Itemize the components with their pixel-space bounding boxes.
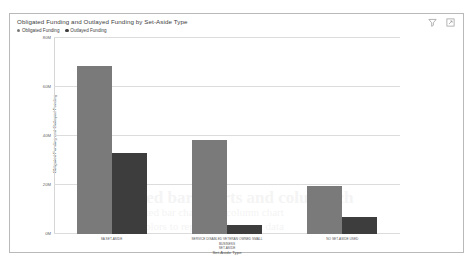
plot-wrapper: Obligated Funding and Outlayed Funding 0… bbox=[10, 14, 465, 254]
bar-outlayed[interactable] bbox=[342, 217, 377, 234]
x-axis-title: Set-Aside Type bbox=[54, 250, 400, 255]
bar-outlayed[interactable] bbox=[227, 225, 262, 234]
bar-group: 8A SET-ASIDE bbox=[54, 38, 169, 234]
y-tick-label: 0M bbox=[45, 231, 51, 236]
x-tick-label: 8A SET-ASIDE bbox=[69, 237, 155, 242]
bar-obligated[interactable] bbox=[192, 140, 227, 234]
x-tick-label: SERVICE DISABLED VETERAN OWNED SMALL BUS… bbox=[184, 237, 270, 251]
plot-area: 0M20M40M60M80M 8A SET-ASIDESERVICE DISAB… bbox=[54, 38, 400, 234]
y-tick-label: 60M bbox=[43, 84, 51, 89]
bar-obligated[interactable] bbox=[307, 186, 342, 234]
bar-series-container: 8A SET-ASIDESERVICE DISABLED VETERAN OWN… bbox=[54, 38, 400, 234]
y-tick-label: 20M bbox=[43, 182, 51, 187]
chart-card: Obligated Funding and Outlayed Funding b… bbox=[9, 13, 464, 253]
bar-group: NO SET-ASIDE USED bbox=[285, 38, 400, 234]
y-tick-label: 40M bbox=[43, 133, 51, 138]
y-tick-label: 80M bbox=[43, 35, 51, 40]
x-tick-label: NO SET-ASIDE USED bbox=[299, 237, 385, 242]
bar-obligated[interactable] bbox=[77, 66, 112, 234]
bar-group: SERVICE DISABLED VETERAN OWNED SMALL BUS… bbox=[169, 38, 284, 234]
bar-outlayed[interactable] bbox=[112, 153, 147, 234]
